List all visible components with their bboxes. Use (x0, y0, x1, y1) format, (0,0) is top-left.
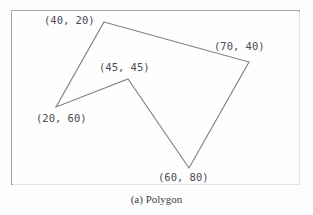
figure-caption: (a) Polygon (0, 193, 313, 205)
polygon-figure: (40, 20) (70, 40) (45, 45) (20, 60) (60,… (0, 0, 313, 215)
vertex-label-40-20: (40, 20) (44, 14, 95, 26)
vertex-label-45-45: (45, 45) (99, 61, 150, 73)
vertex-label-70-40: (70, 40) (214, 40, 265, 52)
vertex-label-20-60: (20, 60) (36, 112, 87, 124)
vertex-label-60-80: (60, 80) (158, 171, 209, 183)
polygon-drawing (0, 0, 313, 215)
